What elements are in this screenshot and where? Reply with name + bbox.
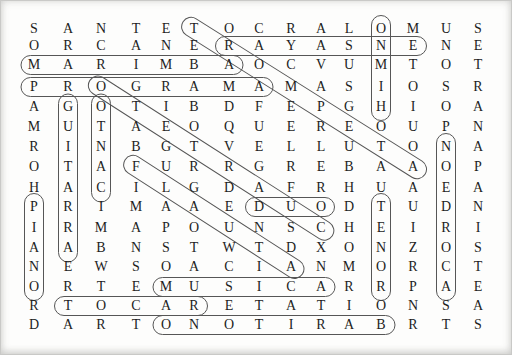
grid-letter: H (344, 221, 354, 235)
grid-letter: A (254, 39, 264, 53)
grid-letter: T (409, 58, 418, 72)
grid-letter: O (189, 221, 199, 235)
grid-letter: R (63, 221, 72, 235)
grid-letter: O (344, 241, 354, 255)
grid-letter: R (63, 280, 72, 294)
grid-letter: A (63, 181, 73, 195)
grid-letter: T (132, 100, 141, 114)
grid-letter: E (377, 221, 386, 235)
grid-letter: N (96, 140, 106, 154)
grid-letter: C (131, 299, 140, 313)
grid-letter: M (28, 120, 40, 134)
grid-letter: D (254, 200, 264, 214)
grid-letter: F (132, 160, 140, 174)
found-word-oval-trompeta (177, 13, 430, 183)
grid-letter: W (94, 260, 107, 274)
grid-letter: T (377, 140, 386, 154)
grid-letter: B (96, 241, 105, 255)
grid-letter: S (225, 280, 233, 294)
grid-letter: N (316, 260, 326, 274)
grid-letter: R (96, 58, 105, 72)
grid-letter: G (189, 181, 199, 195)
grid-letter: R (316, 318, 325, 332)
grid-letter: E (162, 22, 171, 36)
grid-letter: T (64, 160, 73, 174)
grid-letter: D (441, 200, 451, 214)
grid-letter: I (99, 200, 104, 214)
grid-letter: D (224, 181, 234, 195)
grid-letter: F (255, 100, 263, 114)
grid-letter: P (30, 80, 38, 94)
grid-letter: I (257, 280, 262, 294)
grid-letter: H (29, 181, 39, 195)
grid-letter: U (189, 280, 199, 294)
grid-letter: R (473, 80, 482, 94)
grid-letter: N (131, 241, 141, 255)
grid-letter: N (96, 22, 106, 36)
grid-letter: C (254, 22, 263, 36)
grid-letter: C (96, 39, 105, 53)
grid-letter: L (317, 140, 326, 154)
grid-letter: U (376, 181, 386, 195)
grid-letter: B (344, 160, 353, 174)
grid-letter: S (442, 299, 450, 313)
grid-letter: A (131, 39, 141, 53)
grid-letter: T (132, 22, 141, 36)
grid-letter: A (189, 260, 199, 274)
grid-letter: O (96, 299, 106, 313)
grid-letter: T (190, 140, 199, 154)
grid-letter: O (161, 318, 171, 332)
grid-letter: A (316, 280, 326, 294)
grid-letter: S (287, 221, 295, 235)
grid-letter: T (474, 58, 483, 72)
grid-letter: E (287, 120, 296, 134)
grid-letter: A (441, 280, 451, 294)
grid-letter: R (224, 39, 233, 53)
grid-letter: O (376, 22, 386, 36)
grid-letter: M (130, 200, 142, 214)
grid-letter: M (160, 58, 172, 72)
grid-letter: M (343, 260, 355, 274)
grid-letter: E (409, 39, 418, 53)
grid-letter: Q (224, 120, 234, 134)
grid-letter: S (345, 80, 353, 94)
grid-letter: R (29, 299, 38, 313)
grid-letter: E (442, 181, 451, 195)
grid-letter: U (408, 120, 418, 134)
grid-letter: G (63, 100, 73, 114)
grid-letter: T (255, 299, 264, 313)
grid-letter: W (222, 241, 235, 255)
grid-letter: N (189, 318, 199, 332)
grid-letter: U (286, 200, 296, 214)
grid-letter: M (375, 58, 387, 72)
grid-letter: A (29, 241, 39, 255)
grid-letter: R (63, 200, 72, 214)
word-search-puzzle: SANTETOCRALOMUSORCANERAYASNENEMARIMBAOCV… (0, 0, 512, 355)
grid-letter: A (96, 160, 106, 174)
grid-letter: A (63, 58, 73, 72)
grid-letter: M (95, 221, 107, 235)
grid-letter: H (376, 100, 386, 114)
grid-letter: E (225, 200, 234, 214)
grid-letter: E (474, 280, 483, 294)
grid-letter: O (224, 318, 234, 332)
grid-letter: T (255, 241, 264, 255)
grid-letter: O (441, 58, 451, 72)
grid-letter: I (134, 58, 139, 72)
grid-letter: R (96, 318, 105, 332)
found-word-oval-musica (152, 277, 335, 297)
grid-letter: N (376, 241, 386, 255)
grid-letter: A (473, 140, 483, 154)
grid-letter: P (442, 120, 450, 134)
grid-letter: A (254, 181, 264, 195)
grid-letter: A (473, 181, 483, 195)
grid-letter: M (160, 280, 172, 294)
grid-letter: A (316, 39, 326, 53)
grid-letter: H (344, 181, 354, 195)
grid-letter: R (29, 140, 38, 154)
grid-letter: O (441, 241, 451, 255)
grid-letter: E (64, 260, 73, 274)
grid-letter: A (316, 22, 326, 36)
grid-letter: O (376, 260, 386, 274)
grid-letter: S (474, 241, 482, 255)
